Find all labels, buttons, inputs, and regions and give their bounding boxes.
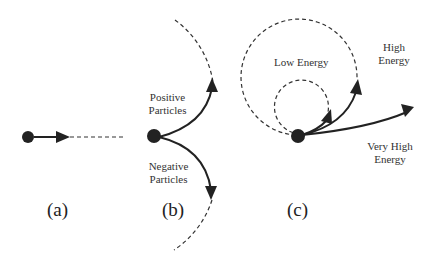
- low-energy-label: Low Energy: [274, 56, 328, 69]
- very-high-energy-trajectory: [302, 112, 407, 135]
- panel-a: [22, 131, 124, 143]
- negative-particles-label: Negative Particles: [145, 160, 192, 186]
- caption-a: (a): [47, 200, 68, 220]
- very-high-energy-arrow-icon: [401, 104, 414, 117]
- high-energy-label: High Energy: [374, 41, 414, 67]
- arrow-head-icon: [56, 131, 70, 143]
- particle-dot: [22, 131, 34, 143]
- caption-c: (c): [287, 200, 308, 220]
- positive-particles-label: Positive Particles: [145, 91, 190, 117]
- particle-trajectory-diagram: [0, 0, 433, 261]
- very-high-energy-label: Very High Energy: [362, 140, 418, 166]
- caption-b: (b): [162, 200, 184, 220]
- particle-dot: [291, 129, 305, 143]
- panel-c: [241, 19, 414, 143]
- positive-arrow-icon: [206, 78, 218, 92]
- particle-dot: [147, 129, 161, 143]
- high-energy-arrow-icon: [350, 79, 362, 95]
- positive-dashed-arc: [175, 20, 213, 82]
- low-energy-arrow-icon: [321, 109, 332, 124]
- negative-arrow-icon: [205, 186, 217, 200]
